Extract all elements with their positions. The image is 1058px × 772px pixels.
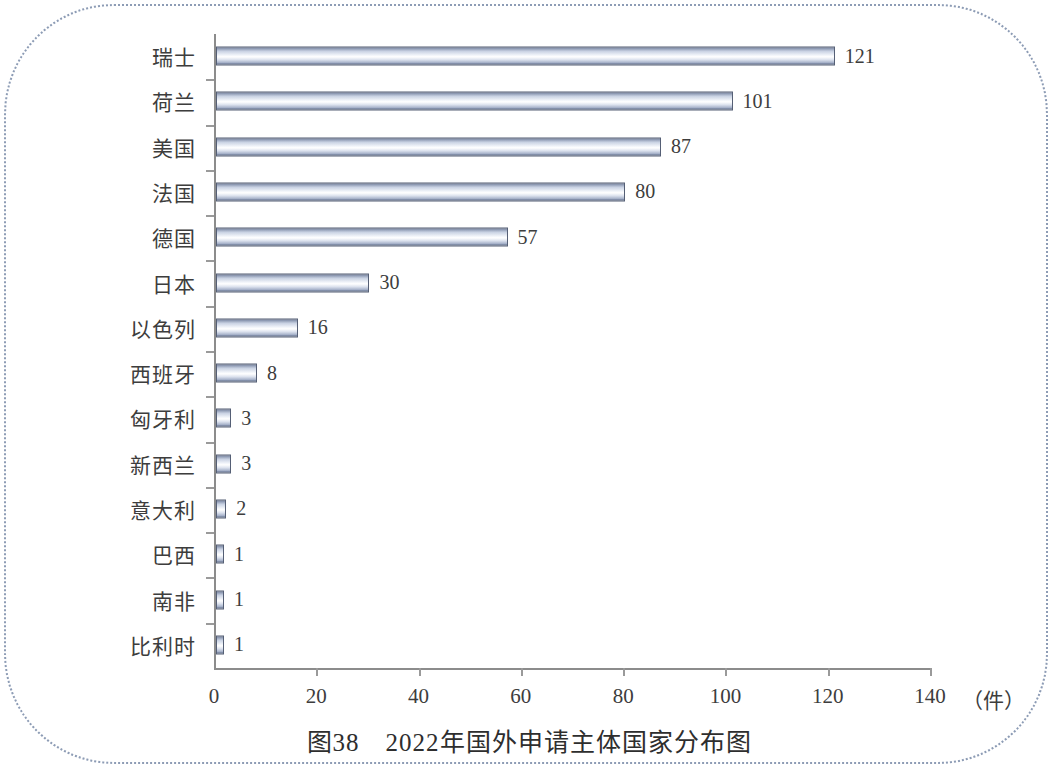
x-axis-line xyxy=(214,668,930,670)
bar-value-label: 121 xyxy=(845,45,875,68)
bar-value-label: 16 xyxy=(308,316,328,339)
bar-value-label: 30 xyxy=(379,271,399,294)
x-axis-tick xyxy=(316,668,318,676)
category-label-意大利: 意大利 xyxy=(130,494,196,524)
bar-西班牙: 8 xyxy=(216,364,257,383)
bar-value-label: 3 xyxy=(241,407,251,430)
x-axis-tick-label: 80 xyxy=(613,684,634,709)
y-axis-tick xyxy=(206,306,214,308)
bar-row: 法国80 xyxy=(214,170,930,214)
bar-荷兰: 101 xyxy=(216,92,733,111)
x-axis-tick xyxy=(623,668,625,676)
x-axis-tick xyxy=(419,668,421,676)
x-axis-tick xyxy=(521,668,523,676)
x-axis-tick-label: 140 xyxy=(914,684,946,709)
bar-row: 巴西1 xyxy=(214,532,930,576)
bar-row: 德国57 xyxy=(214,215,930,259)
y-axis-tick xyxy=(206,532,214,534)
bar-巴西: 1 xyxy=(216,545,224,564)
bar-德国: 57 xyxy=(216,228,508,247)
category-label-巴西: 巴西 xyxy=(152,539,196,569)
category-label-南非: 南非 xyxy=(152,585,196,615)
y-axis-tick xyxy=(206,487,214,489)
bar-row: 西班牙8 xyxy=(214,351,930,395)
plot-area: 瑞士121荷兰101美国87法国80德国57日本30以色列16西班牙8匈牙利3新… xyxy=(214,34,930,668)
x-axis-tick-label: 120 xyxy=(812,684,844,709)
bar-新西兰: 3 xyxy=(216,454,231,473)
bar-value-label: 3 xyxy=(241,452,251,475)
category-label-荷兰: 荷兰 xyxy=(152,86,196,116)
bar-value-label: 80 xyxy=(635,180,655,203)
x-axis-tick-label: 0 xyxy=(209,684,220,709)
y-axis-tick xyxy=(206,396,214,398)
y-axis-tick xyxy=(206,215,214,217)
bar-南非: 1 xyxy=(216,590,224,609)
bar-意大利: 2 xyxy=(216,499,226,518)
y-axis-tick xyxy=(206,125,214,127)
bar-row: 比利时1 xyxy=(214,623,930,667)
y-axis-tick xyxy=(206,79,214,81)
figure-caption: 图38 2022年国外申请主体国家分布图 xyxy=(0,722,1058,758)
bar-value-label: 2 xyxy=(236,497,246,520)
bar-美国: 87 xyxy=(216,137,661,156)
x-axis-unit-label: （件） xyxy=(962,684,1025,714)
bar-日本: 30 xyxy=(216,273,369,292)
bar-row: 日本30 xyxy=(214,260,930,304)
bar-row: 匈牙利3 xyxy=(214,396,930,440)
y-axis-tick xyxy=(206,442,214,444)
bar-法国: 80 xyxy=(216,182,625,201)
x-axis-tick-label: 100 xyxy=(710,684,742,709)
y-axis-tick xyxy=(206,170,214,172)
category-label-以色列: 以色列 xyxy=(130,313,196,343)
x-axis-tick-label: 20 xyxy=(306,684,327,709)
y-axis-tick xyxy=(206,577,214,579)
bar-value-label: 1 xyxy=(234,633,244,656)
x-axis-tick xyxy=(828,668,830,676)
x-axis-tick xyxy=(725,668,727,676)
category-label-法国: 法国 xyxy=(152,177,196,207)
category-label-新西兰: 新西兰 xyxy=(130,449,196,479)
bar-row: 意大利2 xyxy=(214,487,930,531)
category-label-瑞士: 瑞士 xyxy=(152,41,196,71)
bar-匈牙利: 3 xyxy=(216,409,231,428)
bar-value-label: 8 xyxy=(267,362,277,385)
category-label-日本: 日本 xyxy=(152,268,196,298)
bar-row: 荷兰101 xyxy=(214,79,930,123)
bar-row: 美国87 xyxy=(214,125,930,169)
category-label-美国: 美国 xyxy=(152,132,196,162)
bar-value-label: 101 xyxy=(743,90,773,113)
bar-row: 南非1 xyxy=(214,577,930,621)
category-label-匈牙利: 匈牙利 xyxy=(130,403,196,433)
bar-value-label: 1 xyxy=(234,588,244,611)
y-axis-tick xyxy=(206,260,214,262)
category-label-比利时: 比利时 xyxy=(130,630,196,660)
category-label-西班牙: 西班牙 xyxy=(130,358,196,388)
category-label-德国: 德国 xyxy=(152,222,196,252)
bar-以色列: 16 xyxy=(216,318,298,337)
y-axis-tick xyxy=(206,623,214,625)
bar-value-label: 87 xyxy=(671,135,691,158)
bar-value-label: 1 xyxy=(234,543,244,566)
bar-比利时: 1 xyxy=(216,635,224,654)
bar-row: 新西兰3 xyxy=(214,442,930,486)
x-axis-tick-label: 60 xyxy=(510,684,531,709)
bar-row: 以色列16 xyxy=(214,306,930,350)
y-axis-tick xyxy=(206,351,214,353)
x-axis-tick xyxy=(930,668,932,676)
x-axis-tick-label: 40 xyxy=(408,684,429,709)
bar-chart: 瑞士121荷兰101美国87法国80德国57日本30以色列16西班牙8匈牙利3新… xyxy=(0,0,1058,772)
bar-row: 瑞士121 xyxy=(214,34,930,78)
bar-瑞士: 121 xyxy=(216,47,835,66)
bar-value-label: 57 xyxy=(518,226,538,249)
